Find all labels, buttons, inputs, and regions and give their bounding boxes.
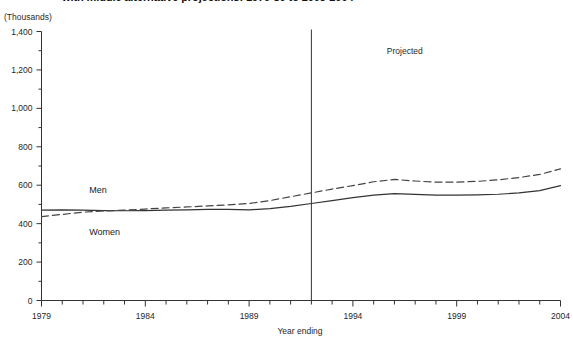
y-tick-label: 1,200 xyxy=(11,65,33,75)
y-tick-label: 400 xyxy=(18,219,32,229)
y-tick-label: 1,000 xyxy=(11,103,33,113)
x-tick-label: 1984 xyxy=(136,311,155,321)
y-axis: 02004006008001,0001,2001,400 xyxy=(11,27,41,306)
chart-annotations: Projected xyxy=(387,46,423,56)
x-axis-title: Year ending xyxy=(277,326,322,336)
x-tick-label: 1994 xyxy=(343,311,362,321)
x-axis: 197919841989199419992004 xyxy=(32,301,570,321)
y-tick-label: 800 xyxy=(18,142,32,152)
series-line-women xyxy=(42,169,561,217)
x-tick-label: 1979 xyxy=(32,311,51,321)
y-tick-label: 200 xyxy=(18,257,32,267)
series-label-women: Women xyxy=(89,227,120,237)
y-tick-label: 1,400 xyxy=(11,27,33,37)
x-tick-label: 1999 xyxy=(447,311,466,321)
series-label-men: Men xyxy=(89,185,107,195)
x-tick-label: 1989 xyxy=(240,311,259,321)
data-series xyxy=(42,169,561,217)
chart-plot-area: 02004006008001,0001,2001,400 19791984198… xyxy=(0,0,573,341)
series-line-men xyxy=(42,186,561,211)
x-tick-label: 2004 xyxy=(551,311,570,321)
annotation-projected: Projected xyxy=(387,46,423,56)
y-tick-label: 600 xyxy=(18,180,32,190)
y-tick-label: 0 xyxy=(28,296,33,306)
chart-figure: with middle alternative projections: 197… xyxy=(0,0,573,341)
